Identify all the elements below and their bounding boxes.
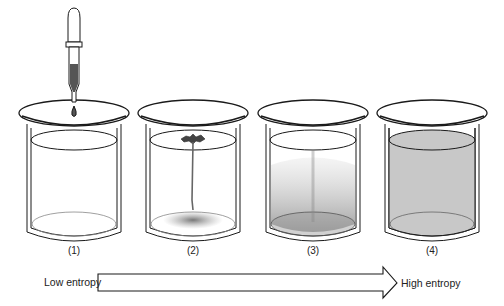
high-entropy-label: High entropy	[401, 277, 461, 289]
stage-label-3: (3)	[307, 245, 319, 256]
beaker-1	[19, 100, 129, 241]
low-entropy-label: Low entropy	[44, 276, 101, 288]
beaker-2	[138, 100, 248, 241]
beaker-3	[258, 100, 368, 241]
diagram-canvas	[0, 0, 504, 306]
stage-label-4: (4)	[426, 245, 438, 256]
beaker-4	[377, 100, 487, 241]
stage-label-1: (1)	[68, 245, 80, 256]
stage-label-2: (2)	[187, 245, 199, 256]
entropy-arrow	[98, 267, 397, 298]
